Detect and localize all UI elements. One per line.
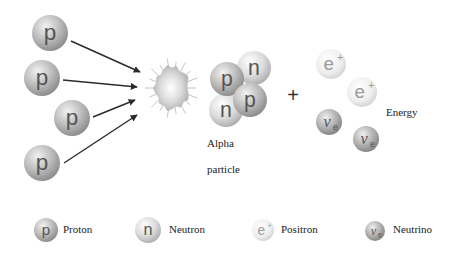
alpha-label-line1: Alpha: [207, 137, 234, 149]
legend-positron-label: Positron: [281, 223, 318, 235]
arrow-2: [63, 80, 137, 87]
positron-1: e+: [316, 49, 346, 79]
legend-proton-label: Proton: [63, 223, 92, 235]
proton-symbol: p: [221, 67, 233, 91]
diagram-canvas: pppp nnpp + e+e+νeνe pne+νe: [0, 0, 452, 259]
fusion-burst-icon: [145, 59, 197, 117]
svg-text:e: e: [378, 231, 382, 238]
neutrino-symbol: ν: [323, 113, 331, 131]
proton-symbol: p: [42, 221, 50, 238]
positron-2: e+: [347, 77, 377, 107]
svg-text:+: +: [337, 52, 343, 63]
legend-neutrino-icon: νe: [365, 221, 385, 241]
products: e+e+νeνe: [316, 49, 379, 152]
neutrino-symbol: ν: [371, 224, 377, 238]
alpha-label-line2: particle: [207, 163, 240, 175]
proton-symbol: p: [66, 105, 79, 130]
legend-neutron-icon: n: [135, 217, 161, 243]
fusion-diagram: pppp nnpp + e+e+νeνe pne+νe Alpha partic…: [0, 0, 452, 259]
energy-label: Energy: [386, 106, 418, 118]
svg-text:e: e: [370, 139, 375, 149]
positron-symbol: e: [258, 223, 266, 238]
alpha-proton-4: p: [233, 83, 267, 117]
neutrino-1: νe: [316, 109, 342, 135]
arrow-3: [93, 100, 135, 117]
reactant-protons: pppp: [24, 15, 90, 181]
proton-symbol: p: [36, 150, 49, 175]
positron-symbol: e: [355, 81, 365, 102]
reactant-proton-2: p: [24, 60, 60, 96]
neutrino-symbol: ν: [360, 130, 368, 148]
legend-positron-icon: e+: [252, 219, 274, 241]
svg-text:+: +: [268, 221, 273, 230]
proton-symbol: p: [44, 20, 57, 45]
neutron-symbol: n: [248, 56, 260, 80]
positron-symbol: e: [324, 53, 334, 74]
arrow-1: [71, 41, 140, 72]
proton-symbol: p: [244, 88, 256, 112]
svg-text:+: +: [368, 80, 374, 91]
plus-sign: +: [287, 84, 299, 106]
neutron-symbol: n: [143, 220, 152, 238]
neutron-symbol: n: [220, 98, 232, 122]
svg-text:e: e: [333, 122, 338, 132]
legend-proton-icon: p: [34, 218, 58, 242]
proton-symbol: p: [36, 65, 49, 90]
legend-neutrino-label: Neutrino: [393, 223, 432, 235]
reactant-proton-4: p: [24, 145, 60, 181]
legend-neutron-label: Neutron: [169, 223, 205, 235]
reactant-proton-3: p: [54, 100, 90, 136]
reactant-proton-1: p: [32, 15, 68, 51]
neutrino-2: νe: [353, 126, 379, 152]
alpha-particle: nnpp: [209, 51, 271, 127]
